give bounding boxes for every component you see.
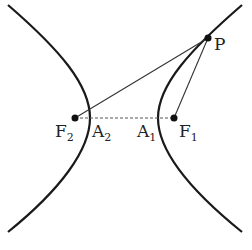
label-f2: F2 (55, 121, 74, 144)
segment-p-f1 (174, 38, 208, 118)
label-p: P (214, 34, 225, 54)
segment-p-f2 (75, 38, 208, 118)
label-f1: F1 (179, 121, 198, 144)
label-a2: A2 (91, 121, 111, 144)
label-a1: A1 (136, 121, 156, 144)
diagram-svg: P F2 A2 A1 F1 (0, 0, 252, 250)
point-p (205, 35, 212, 42)
point-f1 (171, 115, 178, 122)
point-f2 (72, 115, 79, 122)
hyperbola-diagram: P F2 A2 A1 F1 (0, 0, 252, 250)
